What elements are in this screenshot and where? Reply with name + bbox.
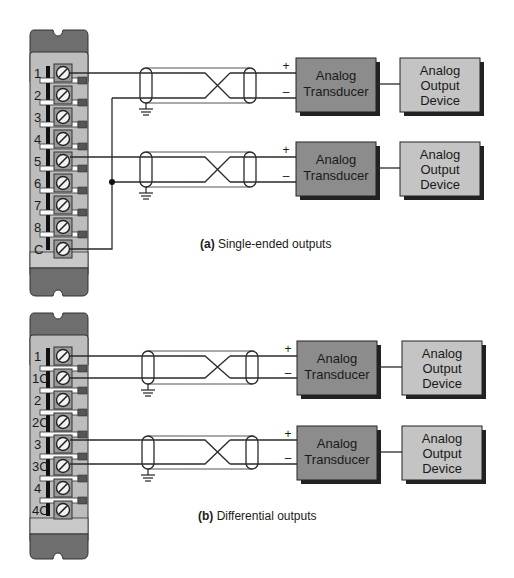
diagram-single-ended: 1 2 3 4 5 6 7 8 C	[30, 30, 484, 296]
terminal-label: C	[34, 242, 43, 257]
caption-a: (a) Single-ended outputs	[200, 237, 331, 251]
ground-icon	[139, 187, 153, 199]
terminal-label: 1C	[32, 371, 49, 386]
terminal-label: 3C	[32, 459, 49, 474]
terminal-label: 4C	[32, 503, 49, 518]
svg-text:Analog: Analog	[316, 152, 356, 167]
svg-text:Analog: Analog	[317, 436, 357, 451]
svg-text:Output: Output	[422, 446, 461, 461]
terminal-label: 1	[34, 66, 41, 81]
svg-text:Transducer: Transducer	[304, 452, 370, 467]
terminal-label: 1	[34, 349, 41, 364]
diagram-differential: 1 1C 2 2C 3 3C 4 4C	[30, 313, 486, 559]
svg-text:Analog: Analog	[422, 346, 462, 361]
svg-text:Analog: Analog	[317, 351, 357, 366]
junction-dot	[109, 179, 115, 185]
svg-text:Transducer: Transducer	[304, 367, 370, 382]
svg-text:Transducer: Transducer	[303, 168, 369, 183]
wiring-diagram: 1 2 3 4 5 6 7 8 C	[0, 0, 514, 578]
minus-sign: –	[283, 85, 290, 99]
terminal-label: 3	[34, 110, 41, 125]
plus-sign: +	[282, 143, 289, 157]
terminal-label: 3	[34, 437, 41, 452]
terminal-label: 8	[34, 220, 41, 235]
svg-text:Device: Device	[420, 177, 460, 192]
terminal-block-a: 1 2 3 4 5 6 7 8 C	[30, 30, 88, 296]
ground-icon	[141, 384, 155, 396]
svg-text:Device: Device	[420, 93, 460, 108]
svg-text:Transducer: Transducer	[303, 84, 369, 99]
minus-sign: –	[285, 366, 292, 380]
terminal-label: 7	[34, 198, 41, 213]
terminal-label: 2	[34, 393, 41, 408]
channel-a1: + – Analog Transducer Analog Output Devi…	[282, 58, 484, 116]
svg-text:Analog: Analog	[420, 147, 460, 162]
ground-icon	[141, 469, 155, 481]
channel-b1: + – Analog Transducer Analog Output Devi…	[284, 341, 486, 399]
plus-sign: +	[284, 427, 291, 441]
svg-text:Analog: Analog	[316, 68, 356, 83]
channel-a2: + – Analog Transducer Analog Output Devi…	[282, 142, 484, 200]
terminal-label: 4	[34, 481, 41, 496]
minus-sign: –	[283, 169, 290, 183]
terminal-label: 4	[34, 132, 41, 147]
wiring-a	[70, 73, 297, 249]
terminal-label: 2C	[32, 415, 49, 430]
terminal-label: 2	[34, 88, 41, 103]
screw-terminal-1	[54, 64, 72, 82]
ground-icon	[139, 103, 153, 115]
wiring-b	[70, 356, 297, 464]
svg-text:Output: Output	[420, 162, 459, 177]
plus-sign: +	[284, 342, 291, 356]
svg-text:Device: Device	[422, 461, 462, 476]
terminal-label: 6	[34, 176, 41, 191]
channel-b2: + – Analog Transducer Analog Output Devi…	[284, 426, 486, 484]
minus-sign: –	[285, 451, 292, 465]
terminal-block-b: 1 1C 2 2C 3 3C 4 4C	[30, 313, 88, 559]
terminal-label: 5	[34, 154, 41, 169]
svg-text:Analog: Analog	[420, 63, 460, 78]
svg-text:Output: Output	[422, 361, 461, 376]
caption-b: (b) Differential outputs	[198, 509, 317, 523]
plus-sign: +	[282, 59, 289, 73]
svg-text:Output: Output	[420, 78, 459, 93]
svg-text:Device: Device	[422, 376, 462, 391]
svg-text:Analog: Analog	[422, 431, 462, 446]
